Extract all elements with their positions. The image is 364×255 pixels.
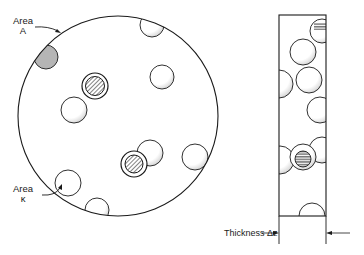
area-a-label: Area A bbox=[8, 16, 38, 36]
area-a-label-line2: A bbox=[8, 26, 38, 36]
particle-upper-right bbox=[150, 65, 174, 89]
thickness-label: Thickness Δz bbox=[224, 228, 278, 238]
slab-particles bbox=[265, 19, 335, 229]
area-kappa-label-line2: κ bbox=[8, 194, 38, 204]
slab-particle-5 bbox=[307, 97, 333, 123]
area-kappa-label: Area κ bbox=[8, 184, 38, 204]
slab-particle-2 bbox=[290, 39, 316, 65]
particle-area-kappa bbox=[55, 170, 81, 196]
particle-hatched-lower-core bbox=[125, 155, 143, 173]
slab-particle-hatched-core bbox=[295, 151, 311, 167]
slab-particle-4 bbox=[296, 67, 322, 93]
slab-side-view bbox=[262, 15, 350, 244]
dimension-arrowhead-right bbox=[326, 231, 332, 235]
particle-bottom bbox=[85, 198, 109, 222]
sample-diagram bbox=[0, 0, 364, 255]
slab-particle-top bbox=[310, 19, 334, 43]
particle-hatched-upper-core bbox=[86, 77, 105, 96]
disc-particles bbox=[34, 13, 208, 222]
particle-left-center bbox=[61, 97, 87, 123]
disc-cross-section bbox=[18, 13, 218, 222]
area-a-arrow bbox=[35, 27, 58, 31]
slab-particle-6 bbox=[266, 146, 294, 174]
